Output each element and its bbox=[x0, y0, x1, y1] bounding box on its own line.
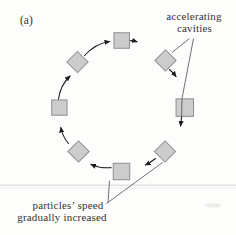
panel-label: (a) bbox=[20, 14, 33, 27]
motion-arrow-top-exit bbox=[131, 41, 138, 42]
motion-arrow-bottomleft-to-left bbox=[61, 128, 69, 144]
pointer-cavities-to-diamond bbox=[172, 39, 190, 53]
cavity-top bbox=[114, 33, 130, 49]
motion-arrow-bottom-exit bbox=[91, 164, 111, 167]
scan-rule-line bbox=[0, 184, 236, 186]
cavity-left bbox=[52, 100, 67, 115]
accelerator-ring-diagram: (a) accelerating cavities particles’ spe… bbox=[0, 0, 236, 235]
caption-accelerating-cavities-line1: accelerating bbox=[166, 10, 222, 22]
cavity-top-right bbox=[155, 50, 176, 71]
motion-arrow-topright-exit bbox=[170, 70, 177, 77]
scan-rule-line-light bbox=[0, 188, 236, 189]
pointer-speed-to-bottom-square bbox=[108, 181, 110, 203]
caption-particles-speed-line1: particles’ speed bbox=[32, 199, 103, 211]
cavity-bottom-left bbox=[68, 141, 89, 162]
figure-canvas: (a) accelerating cavities particles’ spe… bbox=[0, 0, 236, 235]
motion-arrow-left-to-topleft bbox=[59, 76, 71, 99]
motion-arrow-right-exit bbox=[181, 117, 182, 126]
caption-accelerating-cavities-line2: cavities bbox=[177, 22, 212, 34]
motion-arrow-topleft-to-top bbox=[85, 42, 110, 56]
motion-arrow-bottomright-to-bottom bbox=[146, 159, 156, 166]
cavities-layer bbox=[52, 33, 194, 180]
cavity-bottom bbox=[113, 163, 130, 180]
scan-smudge bbox=[205, 203, 222, 207]
cavity-right bbox=[176, 99, 194, 117]
caption-particles-speed-line2: gradually increased bbox=[17, 211, 107, 223]
cavity-bottom-right bbox=[154, 141, 175, 162]
